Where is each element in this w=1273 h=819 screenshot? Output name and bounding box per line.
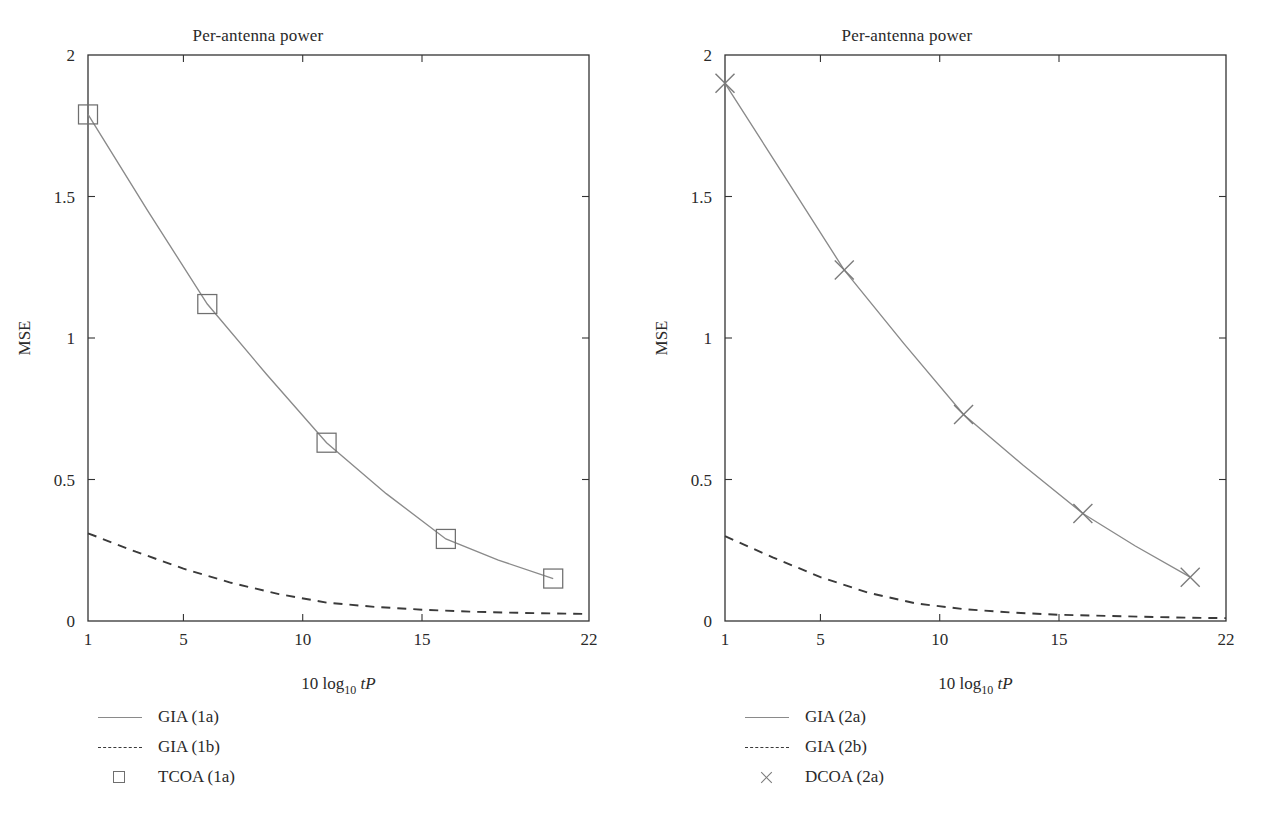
- legend-label: GIA (2a): [795, 707, 866, 727]
- x-tick-label: 1: [84, 630, 93, 649]
- x-tick-label: 15: [414, 630, 431, 649]
- y-tick-label: 1.5: [691, 188, 712, 207]
- legend-left: GIA (1a) GIA (1b) TCOA (1a): [0, 700, 636, 810]
- x-tick-label: 5: [816, 630, 825, 649]
- y-tick-label: 0.5: [691, 471, 712, 490]
- square-marker-key: [92, 766, 148, 788]
- y-tick-label: 1: [67, 329, 76, 348]
- x-tick-label: 5: [179, 630, 188, 649]
- solid-series-line: [725, 83, 1190, 577]
- legend-label: GIA (1a): [148, 707, 219, 727]
- legend-label: TCOA (1a): [148, 767, 235, 787]
- x-tick-label: 10: [294, 630, 311, 649]
- dashed-line-key: [739, 736, 795, 758]
- legend-label: DCOA (2a): [795, 767, 884, 787]
- x-tick-label: 10: [931, 630, 948, 649]
- plot-frame: [725, 55, 1226, 621]
- y-tick-label: 2: [704, 46, 713, 65]
- square-marker: [544, 569, 563, 588]
- plot-area-left: 1510152200.511.52MSE10 log10 tP: [0, 0, 636, 700]
- cross-marker-key: [739, 766, 795, 788]
- y-axis-title: MSE: [652, 321, 671, 356]
- legend-item-gia-1a: GIA (1a): [92, 702, 235, 732]
- legend-label: GIA (1b): [148, 737, 220, 757]
- y-tick-label: 0: [704, 612, 713, 631]
- legend-label: GIA (2b): [795, 737, 867, 757]
- dashed-series-line: [725, 536, 1226, 618]
- y-tick-label: 0.5: [54, 471, 75, 490]
- x-tick-label: 22: [581, 630, 598, 649]
- dashed-series-line: [88, 533, 589, 614]
- x-axis-title: 10 log10 tP: [301, 674, 375, 697]
- y-axis-title: MSE: [15, 321, 34, 356]
- y-tick-label: 1: [704, 329, 713, 348]
- y-tick-label: 0: [67, 612, 76, 631]
- y-tick-label: 2: [67, 46, 76, 65]
- x-axis-title: 10 log10 tP: [938, 674, 1012, 697]
- chart-panel-left: Per-antenna power 1510152200.511.52MSE10…: [0, 0, 636, 819]
- legend-item-gia-2a: GIA (2a): [739, 702, 884, 732]
- solid-line-key: [739, 706, 795, 728]
- dashed-line-key: [92, 736, 148, 758]
- legend-item-gia-2b: GIA (2b): [739, 732, 884, 762]
- legend-item-dcoa-2a: DCOA (2a): [739, 762, 884, 792]
- x-tick-label: 22: [1218, 630, 1235, 649]
- legend-item-gia-1b: GIA (1b): [92, 732, 235, 762]
- legend-item-tcoa-1a: TCOA (1a): [92, 762, 235, 792]
- x-tick-label: 1: [721, 630, 730, 649]
- plot-area-right: 1510152200.511.52MSE10 log10 tP: [637, 0, 1273, 700]
- solid-line-key: [92, 706, 148, 728]
- legend-right: GIA (2a) GIA (2b) DCOA (2a): [637, 700, 1273, 810]
- solid-series-line: [88, 114, 553, 578]
- y-tick-label: 1.5: [54, 188, 75, 207]
- plot-frame: [88, 55, 589, 621]
- chart-panel-right: Per-antenna power 1510152200.511.52MSE10…: [637, 0, 1273, 819]
- figure-root: Per-antenna power 1510152200.511.52MSE10…: [0, 0, 1273, 819]
- x-tick-label: 15: [1051, 630, 1068, 649]
